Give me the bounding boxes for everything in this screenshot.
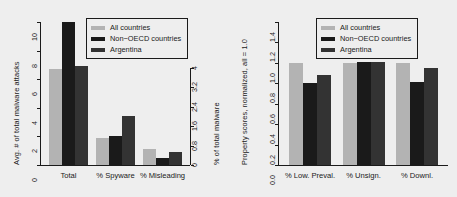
legend-swatch-icon — [321, 48, 335, 52]
y-axis-label-right: % of total malware — [212, 102, 221, 165]
y-axis-label: Property scores, normalized, all = 1.0 — [240, 39, 249, 165]
y-axis-tick-label-left: 4 — [30, 108, 40, 138]
bar — [424, 68, 438, 165]
legend-label: Argentina — [110, 46, 142, 53]
figure: Avg. # of total malware attacks % of tot… — [0, 0, 457, 197]
legend-swatch-icon — [91, 26, 105, 30]
bar — [75, 66, 88, 165]
legend-swatch-icon — [321, 26, 335, 30]
bar — [317, 75, 331, 165]
chart-panel-malware-attacks: Avg. # of total malware attacks % of tot… — [0, 0, 226, 197]
x-axis-tick-label: % Low. Preval. — [285, 171, 335, 180]
bar — [109, 136, 122, 165]
legend-item: All countries — [321, 22, 412, 33]
y-axis-tick-label-left: 2 — [30, 136, 40, 166]
y-axis-tick-label-left: 8 — [30, 51, 40, 81]
bar — [371, 62, 385, 165]
y-axis-label-left: Avg. # of total malware attacks — [12, 61, 21, 165]
x-axis-tick-label: % Unsign. — [346, 171, 381, 180]
bar — [49, 69, 62, 165]
y-axis-tick-label-left: 6 — [30, 79, 40, 109]
bar — [303, 83, 317, 165]
x-axis-tick-label: Total — [60, 171, 76, 180]
legend-label: Non−OECD countries — [110, 35, 181, 42]
bar — [62, 22, 75, 165]
chart-panel-property-scores: Property scores, normalized, all = 1.0 %… — [226, 0, 457, 197]
y-axis-tick-label-left: 0 — [30, 165, 40, 195]
bar — [396, 63, 410, 165]
legend-item: Argentina — [91, 44, 182, 55]
legend-property-scores: All countriesNon−OECD countriesArgentina — [316, 18, 418, 59]
legend-item: Argentina — [321, 44, 412, 55]
bar — [169, 152, 182, 165]
bar — [410, 82, 424, 165]
legend-label: All countries — [340, 24, 380, 31]
y-axis-tick-label: 1.4 — [268, 22, 278, 52]
legend-malware-attacks: All countriesNon−OECD countriesArgentina — [86, 18, 188, 59]
x-axis-tick-label: % Spyware — [96, 171, 134, 180]
legend-label: Argentina — [340, 46, 372, 53]
legend-item: Non−OECD countries — [91, 33, 182, 44]
bar — [96, 138, 109, 165]
x-axis-tick-label: % Downl. — [401, 171, 433, 180]
legend-item: Non−OECD countries — [321, 33, 412, 44]
legend-swatch-icon — [321, 37, 335, 41]
y-axis-tick-label-right: 4 — [190, 53, 200, 83]
y-axis-tick-label-left: 10 — [30, 22, 40, 52]
legend-swatch-icon — [91, 37, 105, 41]
bar — [156, 158, 169, 165]
legend-label: Non−OECD countries — [340, 35, 411, 42]
bar — [357, 62, 371, 165]
x-axis-tick-label: % Misleading — [140, 171, 185, 180]
bar — [143, 149, 156, 165]
x-axis-line — [40, 165, 190, 166]
legend-label: All countries — [110, 24, 150, 31]
bar — [122, 116, 135, 165]
bar — [289, 63, 303, 165]
x-axis-line — [278, 165, 448, 166]
legend-swatch-icon — [91, 48, 105, 52]
legend-item: All countries — [91, 22, 182, 33]
bar — [343, 63, 357, 165]
